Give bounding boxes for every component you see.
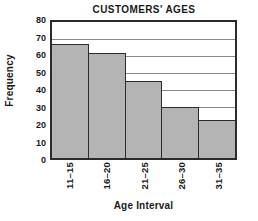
x-axis-tick-label: 16–20: [101, 162, 112, 189]
y-axis-tick-label: 50: [18, 68, 46, 77]
y-axis-tick-label: 20: [18, 121, 46, 130]
x-axis-tick-label: 31–35: [213, 162, 224, 189]
x-axis-tick-label: 11–15: [63, 162, 74, 189]
x-axis-title: Age Interval: [50, 200, 237, 211]
bar: [126, 81, 163, 158]
y-axis-tick-label: 10: [18, 138, 46, 147]
plot-area: [50, 20, 237, 160]
y-axis-title-text: Frequency: [4, 54, 15, 106]
bar: [89, 53, 126, 158]
y-axis-tick-label: 80: [18, 16, 46, 25]
x-axis-tick-cell: 21–25: [125, 162, 162, 198]
x-axis-tick-cell: 26–30: [162, 162, 199, 198]
x-axis-tick-label: 21–25: [138, 162, 149, 189]
bar: [52, 44, 89, 158]
y-axis-tick-label: 30: [18, 103, 46, 112]
chart-title: CUSTOMERS' AGES: [50, 4, 238, 15]
y-axis-tick-label: 0: [18, 156, 46, 165]
y-axis-tick-label: 70: [18, 33, 46, 42]
y-axis-tick-label: 40: [18, 86, 46, 95]
x-axis-tick-label: 26–30: [175, 162, 186, 189]
y-axis-tick-label: 60: [18, 51, 46, 60]
plot-inner: [52, 22, 235, 158]
x-axis-tick-cell: 16–20: [87, 162, 124, 198]
bar: [162, 107, 199, 158]
y-axis-tick-labels: 01020304050607080: [18, 20, 48, 160]
bar-series: [52, 22, 235, 158]
bar: [199, 120, 235, 159]
chart-figure: CUSTOMERS' AGES Frequency 01020304050607…: [0, 0, 258, 221]
y-axis-title: Frequency: [2, 0, 16, 160]
x-axis-tick-cell: 11–15: [50, 162, 87, 198]
x-axis-tick-labels: 11–1516–2021–2526–3031–35: [50, 162, 237, 198]
x-axis-tick-cell: 31–35: [200, 162, 237, 198]
